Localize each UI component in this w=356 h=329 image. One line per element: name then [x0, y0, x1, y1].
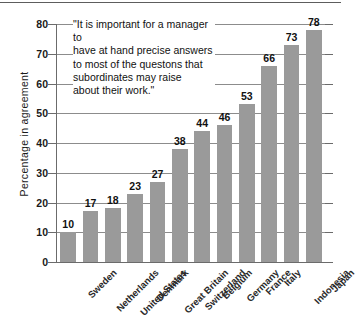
y-axis-tick-mark [48, 24, 56, 25]
y-axis-tick-label: 40 [18, 137, 48, 149]
right-axis-tick-mark [325, 54, 333, 55]
bar-value-label: 38 [174, 135, 186, 147]
x-axis-category-label: Sweden [86, 267, 119, 300]
x-axis-category-label: Japan [329, 267, 356, 294]
bar-value-label: 53 [241, 90, 253, 102]
bar-value-label: 23 [129, 180, 141, 192]
y-axis-tick-mark [48, 203, 56, 204]
right-axis-tick-mark [325, 143, 333, 144]
bar-value-label: 17 [85, 197, 97, 209]
y-axis-tick-label: 0 [18, 256, 48, 268]
y-axis-tick-label: 10 [18, 226, 48, 238]
right-axis-tick-mark [325, 173, 333, 174]
y-axis-tick-label: 80 [18, 18, 48, 30]
y-axis-tick-label: 60 [18, 78, 48, 90]
bar [239, 104, 255, 262]
y-axis-tick-mark [48, 84, 56, 85]
bar-value-label: 44 [196, 117, 208, 129]
bar-value-label: 73 [286, 31, 298, 43]
bar-value-label: 46 [219, 111, 231, 123]
bar [150, 182, 166, 262]
bar-value-label: 66 [263, 52, 275, 64]
bar [83, 211, 99, 262]
bar [261, 66, 277, 262]
right-axis-tick-mark [325, 203, 333, 204]
y-axis-tick-mark [48, 54, 56, 55]
bar-value-label: 78 [308, 16, 320, 28]
x-axis-category-label: Denmark [154, 267, 191, 304]
right-axis-tick-mark [325, 232, 333, 233]
bar-value-label: 27 [152, 168, 164, 180]
y-axis-tick-mark [48, 173, 56, 174]
bar-value-label: 10 [62, 218, 74, 230]
y-axis-tick-label: 70 [18, 48, 48, 60]
y-axis-tick-label: 50 [18, 107, 48, 119]
y-axis-tick-label: 20 [18, 197, 48, 209]
y-axis-tick-mark [48, 232, 56, 233]
bar-value-label: 18 [107, 194, 119, 206]
quote-annotation: "It is important for a manager to have a… [73, 16, 215, 99]
bar [105, 208, 121, 262]
right-axis-tick-mark [325, 24, 333, 25]
y-axis-tick-mark [48, 143, 56, 144]
x-axis-baseline [56, 262, 326, 263]
bar [194, 131, 210, 262]
bar [306, 30, 322, 262]
y-axis-tick-mark [48, 262, 56, 263]
bar [217, 125, 233, 262]
bar [284, 45, 300, 262]
right-axis-tick-mark [325, 84, 333, 85]
y-axis-tick-mark [48, 113, 56, 114]
bar [127, 194, 143, 262]
bar [60, 232, 76, 262]
right-axis-tick-mark [325, 113, 333, 114]
bar [172, 149, 188, 262]
right-axis-tick-mark [325, 262, 333, 263]
y-axis-tick-label: 30 [18, 167, 48, 179]
